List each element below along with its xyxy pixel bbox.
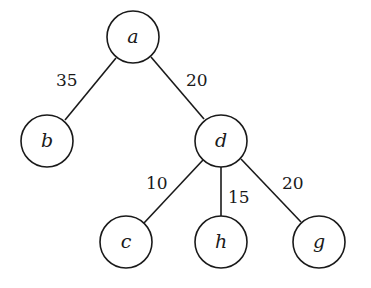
node-c: c <box>100 216 152 268</box>
edge-a-d: 20 <box>151 57 208 119</box>
node-label-a: a <box>127 25 138 47</box>
edge-weight-d-c: 10 <box>146 173 168 193</box>
node-label-d: d <box>215 129 227 151</box>
node-a: a <box>107 11 159 63</box>
node-label-b: b <box>41 129 53 151</box>
edge-d-h: 15 <box>221 167 250 216</box>
node-label-c: c <box>121 230 132 252</box>
node-h: h <box>195 216 247 268</box>
edge-d-c: 10 <box>144 160 203 223</box>
node-g: g <box>293 216 345 268</box>
node-d: d <box>195 115 247 167</box>
edge-a-b: 35 <box>56 58 116 120</box>
edge-weight-a-b: 35 <box>56 70 78 90</box>
node-b: b <box>21 115 73 167</box>
tree-diagram: 35 20 10 15 20 a b d c h g <box>0 0 371 288</box>
edge-weight-a-d: 20 <box>186 70 208 90</box>
edge-d-g: 20 <box>241 159 304 222</box>
edge-weight-d-g: 20 <box>282 173 304 193</box>
node-label-g: g <box>313 230 325 252</box>
edge-weight-d-h: 15 <box>228 187 250 207</box>
node-label-h: h <box>215 230 227 252</box>
